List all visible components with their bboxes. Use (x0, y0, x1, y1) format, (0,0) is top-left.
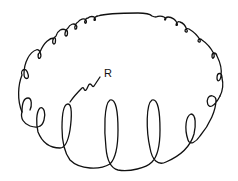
coil-drawing (0, 0, 238, 181)
label-r-leader-line (70, 77, 100, 102)
toroidal-coil-diagram: R (0, 0, 238, 181)
coil-back-arc (19, 13, 223, 112)
label-r: R (104, 68, 112, 79)
coil-right-front (21, 96, 220, 171)
